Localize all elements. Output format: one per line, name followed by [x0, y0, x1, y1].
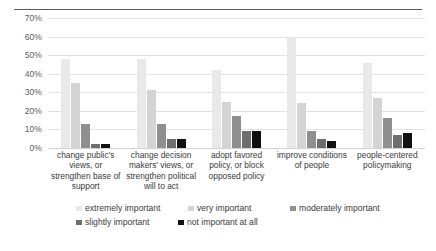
bar[interactable]	[212, 70, 221, 148]
bar[interactable]	[61, 59, 70, 148]
legend-swatch-icon	[76, 206, 82, 212]
chart-figure: 0%10%20%30%40%50%60%70% change public's …	[0, 0, 436, 251]
legend-label: very important	[197, 203, 251, 214]
legend-row: slightly importantnot important at all	[0, 217, 436, 229]
bar[interactable]	[222, 102, 231, 148]
bar[interactable]	[393, 135, 402, 148]
bar[interactable]	[91, 144, 100, 148]
bar-group	[123, 18, 198, 148]
legend-swatch-icon	[76, 220, 82, 226]
y-axis: 0%10%20%30%40%50%60%70%	[0, 18, 46, 148]
bar[interactable]	[167, 139, 176, 148]
bar-group	[350, 18, 425, 148]
legend-item[interactable]: moderately important	[290, 203, 380, 214]
bar[interactable]	[137, 59, 146, 148]
legend-swatch-icon	[188, 206, 194, 212]
legend-swatch-icon	[290, 206, 296, 212]
legend-item[interactable]: not important at all	[178, 217, 258, 228]
bar[interactable]	[252, 131, 261, 148]
legend-row: extremely importantvery importantmoderat…	[0, 203, 436, 215]
legend-item[interactable]: extremely important	[76, 203, 160, 214]
category-label: change public's views, or strengthen bas…	[48, 150, 123, 192]
bar[interactable]	[403, 133, 412, 148]
bar[interactable]	[287, 37, 296, 148]
bar[interactable]	[101, 144, 110, 148]
bar[interactable]	[317, 139, 326, 148]
bar-group	[199, 18, 274, 148]
y-axis-tick-label: 50%	[25, 51, 42, 60]
category-axis-labels: change public's views, or strengthen bas…	[48, 150, 425, 192]
bar[interactable]	[71, 83, 80, 148]
gridline	[48, 148, 425, 149]
bar[interactable]	[363, 63, 372, 148]
category-label: improve conditions of people	[274, 150, 349, 192]
legend-label: slightly important	[85, 217, 149, 228]
legend-swatch-icon	[178, 220, 184, 226]
bar[interactable]	[177, 139, 186, 148]
bar[interactable]	[297, 103, 306, 148]
category-label: change decision makers' views, or streng…	[123, 150, 198, 192]
bar[interactable]	[383, 118, 392, 148]
legend-label: moderately important	[299, 203, 380, 214]
y-axis-tick-label: 10%	[25, 125, 42, 134]
legend-item[interactable]: very important	[188, 203, 251, 214]
category-label: people-centered policymaking	[350, 150, 425, 192]
gridlines-and-bars	[48, 18, 425, 148]
bar[interactable]	[242, 131, 251, 148]
y-axis-tick-label: 0%	[30, 144, 43, 153]
bar[interactable]	[232, 116, 241, 148]
bar[interactable]	[157, 124, 166, 148]
bar[interactable]	[147, 90, 156, 148]
legend-item[interactable]: slightly important	[76, 217, 149, 228]
y-axis-tick-label: 20%	[25, 106, 42, 115]
y-axis-tick-label: 70%	[25, 14, 42, 23]
legend-label: not important at all	[187, 217, 258, 228]
category-label: adopt favored policy, or block opposed p…	[199, 150, 274, 192]
bar-groups	[48, 18, 425, 148]
chart-legend: extremely importantvery importantmoderat…	[0, 203, 436, 231]
y-axis-tick-label: 30%	[25, 88, 42, 97]
plot-area: 0%10%20%30%40%50%60%70%	[0, 18, 436, 148]
top-divider-rule	[14, 9, 422, 10]
bar[interactable]	[81, 124, 90, 148]
y-axis-tick-label: 40%	[25, 69, 42, 78]
legend-label: extremely important	[85, 203, 160, 214]
bar[interactable]	[327, 141, 336, 148]
y-axis-tick-label: 60%	[25, 32, 42, 41]
bar-group	[48, 18, 123, 148]
bar[interactable]	[307, 131, 316, 148]
bar-group	[274, 18, 349, 148]
bar[interactable]	[373, 98, 382, 148]
